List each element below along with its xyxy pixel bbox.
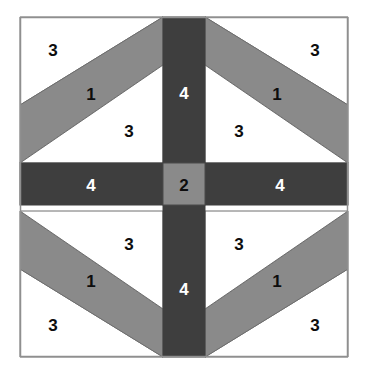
label-bl-inner-3: 3	[124, 235, 133, 254]
quadrant-bottom-right: 3 1 3	[205, 211, 348, 357]
label-bar-bottom-4: 4	[179, 280, 189, 299]
label-bar-left-4: 4	[86, 176, 96, 195]
label-br-outer-3: 3	[310, 316, 319, 335]
label-bl-strip-1: 1	[86, 272, 95, 291]
label-tr-strip-1: 1	[272, 85, 281, 104]
label-tl-outer-3: 3	[48, 41, 57, 60]
quadrant-top-left: 3 1 3	[20, 17, 163, 163]
label-center-2: 2	[179, 176, 188, 195]
label-tr-inner-3: 3	[234, 122, 243, 141]
label-br-inner-3: 3	[234, 235, 243, 254]
quilt-block-canvas: 3 1 3 3 1 3 3 1 3 3 1 3	[0, 0, 367, 385]
quadrant-top-right: 3 1 3	[205, 17, 348, 163]
label-br-strip-1: 1	[272, 272, 281, 291]
label-bar-top-4: 4	[179, 84, 189, 103]
quilt-block-diagram: 3 1 3 3 1 3 3 1 3 3 1 3	[0, 0, 367, 385]
label-tl-inner-3: 3	[124, 122, 133, 141]
label-bar-right-4: 4	[275, 176, 285, 195]
label-tr-outer-3: 3	[310, 41, 319, 60]
quadrant-bottom-left: 3 1 3	[20, 211, 163, 357]
label-tl-strip-1: 1	[86, 85, 95, 104]
label-bl-outer-3: 3	[48, 316, 57, 335]
